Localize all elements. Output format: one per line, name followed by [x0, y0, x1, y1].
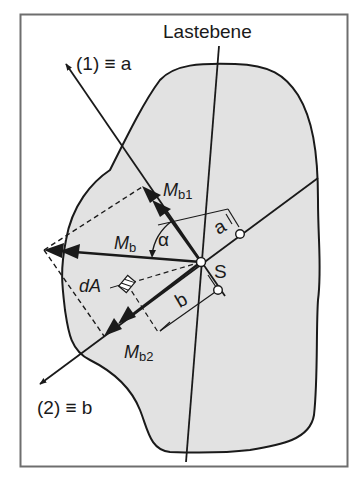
- load-plane-label: Lastebene: [163, 21, 252, 42]
- dimension-a-point: [236, 230, 245, 239]
- area-element-label: dA: [79, 276, 101, 296]
- dimension-b-point: [214, 286, 223, 295]
- axis-2-label: (2) ≡ b: [37, 397, 92, 418]
- bending-moment-diagram: Lastebene (1) ≡ a (2) ≡ b S Mb Mb1 Mb2 α…: [0, 0, 356, 497]
- centroid-point: [197, 258, 206, 267]
- axis-1-label: (1) ≡ a: [76, 53, 132, 74]
- centroid-label: S: [214, 261, 227, 282]
- angle-alpha-label: α: [158, 229, 169, 250]
